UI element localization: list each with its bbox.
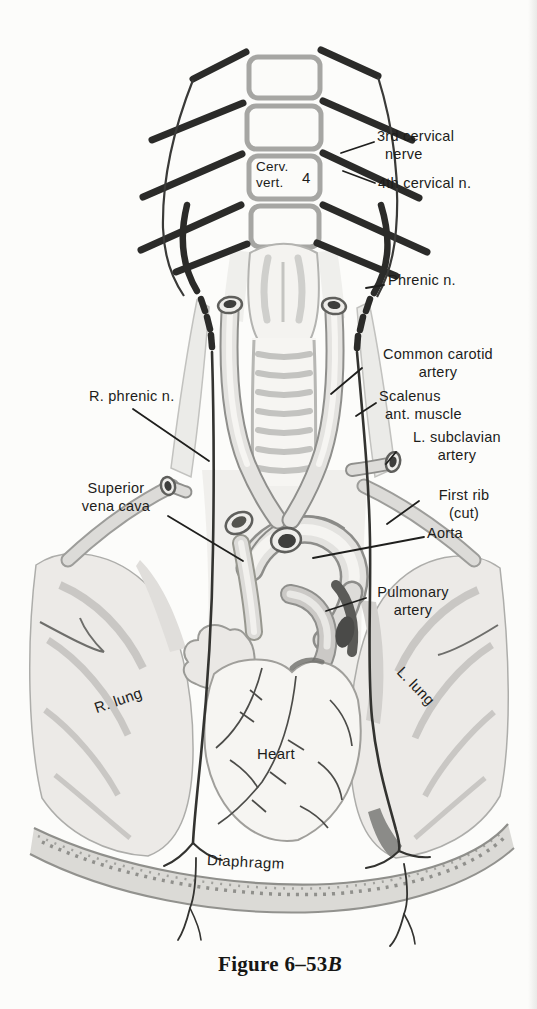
- figure-canvas: 3rd cervical nerve 4th cervical n. Cerv.…: [0, 0, 537, 1009]
- label-left-subclavian-artery: L. subclavian artery: [398, 429, 516, 465]
- label-cervical-vertebra: Cerv. vert.: [256, 159, 289, 192]
- figure-caption: Figure 6–53B: [150, 952, 410, 977]
- leader-pulmonary-artery: [326, 598, 366, 611]
- label-heart: Heart: [257, 745, 295, 764]
- label-4th-cervical-nerve: 4th cervical n.: [378, 175, 471, 193]
- label-common-carotid-artery: Common carotid artery: [363, 346, 513, 382]
- page-edge-shadow: [528, 0, 537, 1009]
- leader-aorta: [313, 537, 424, 558]
- leader-common-carotid: [331, 368, 362, 394]
- label-right-phrenic-nerve: R. phrenic n.: [89, 388, 174, 406]
- label-cervical-vertebra-number: 4: [302, 169, 311, 188]
- leader-4th-cervical-nerve: [343, 171, 375, 183]
- label-scalenus-anterior-muscle: Scalenus ant. muscle: [379, 388, 462, 424]
- leader-l-subclavian: [386, 452, 396, 464]
- label-pulmonary-artery: Pulmonary artery: [368, 584, 458, 620]
- label-superior-vena-cava: Superior vena cava: [66, 480, 166, 516]
- label-aorta: Aorta: [427, 525, 463, 543]
- label-first-rib-cut: First rib (cut): [421, 487, 507, 523]
- leader-3rd-cervical-nerve: [341, 142, 374, 153]
- leader-first-rib: [387, 501, 419, 524]
- label-phrenic-nerve: Phrenic n.: [388, 272, 456, 290]
- leader-superior-vena-cava: [168, 516, 243, 561]
- leader-phrenic-nerve: [366, 285, 384, 288]
- leader-scalenus: [356, 403, 376, 416]
- leader-r-phrenic: [133, 409, 209, 461]
- label-3rd-cervical-nerve: 3rd cervical nerve: [377, 128, 454, 164]
